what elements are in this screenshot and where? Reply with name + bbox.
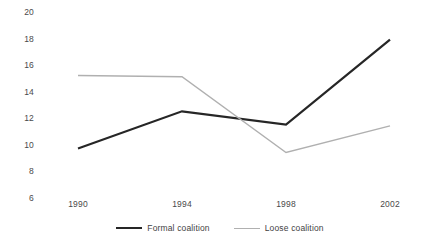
legend-swatch-formal-coalition [116,227,142,229]
series-line [78,75,390,152]
legend-item-loose-coalition[interactable]: Loose coalition [234,223,324,233]
x-axis: 1990199419982002 [0,199,440,213]
series-line [78,40,390,149]
legend-swatch-loose-coalition [234,228,260,229]
line-chart: 20181614121086 1990199419982002 Formal c… [0,0,440,240]
x-tick-label: 1998 [256,199,316,209]
series-lines [78,40,390,153]
legend-label-formal-coalition: Formal coalition [147,223,209,233]
chart-legend: Formal coalition Loose coalition [0,220,440,236]
x-tick-label: 2002 [360,199,420,209]
x-tick-label: 1990 [48,199,108,209]
legend-item-formal-coalition[interactable]: Formal coalition [116,223,209,233]
legend-label-loose-coalition: Loose coalition [265,223,324,233]
x-tick-label: 1994 [152,199,212,209]
